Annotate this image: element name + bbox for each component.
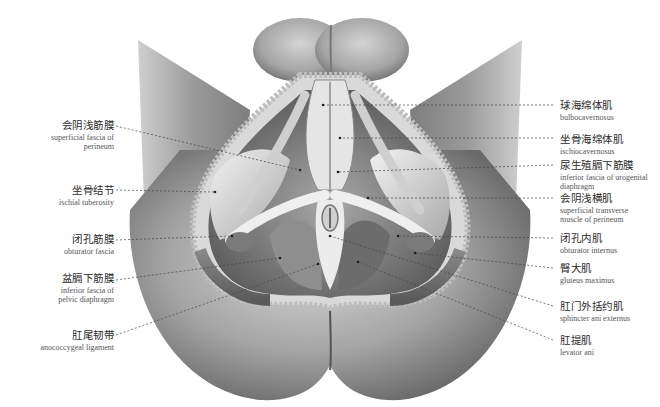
label-obturator-internus: 闭孔内肌 obturator internus bbox=[560, 233, 617, 255]
label-gluteus-maximus: 臀大肌 gluteus maximus bbox=[560, 263, 614, 285]
label-inferior-fascia-of-pelvic-diaphragm: 盆膈下筋膜 inferior fascia of pelvic diaphrag… bbox=[58, 273, 114, 304]
label-superficial-fascia-of-perineum: 会阴浅筋膜 superficial fascia of perineum bbox=[51, 120, 114, 151]
label-ischiocavernosus: 坐骨海绵体肌 ischiocavernosus bbox=[560, 134, 623, 156]
label-levator-ani: 肛提肌 levator ani bbox=[560, 335, 594, 357]
label-superficial-transverse-muscle-of-perineum: 会阴浅横肌 superficial transverse muscle of p… bbox=[560, 193, 628, 224]
label-inferior-fascia-of-urogenital-diaphragm: 尿生殖膈下筋膜 inferior fascia of urogenital di… bbox=[560, 160, 648, 191]
label-obturator-fascia: 闭孔筋膜 obturator fascia bbox=[64, 234, 114, 256]
label-bulbocavernosus: 球海绵体肌 bulbocavernosus bbox=[560, 100, 614, 122]
label-anococcygeal-ligament: 肛尾韧带 anococcygeal ligament bbox=[40, 330, 114, 352]
label-sphincter-ani-externus: 肛门外括约肌 sphincter ani externus bbox=[560, 301, 630, 323]
label-ischial-tuberosity: 坐骨结节 ischial tuberosity bbox=[59, 185, 114, 207]
